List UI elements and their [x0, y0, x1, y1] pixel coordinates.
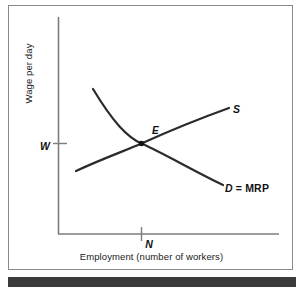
- bottom-rule-bar: [8, 277, 296, 287]
- wage-axis-tick-label: W: [40, 140, 50, 152]
- demand-symbol: D: [225, 182, 233, 194]
- equilibrium-point-marker: [139, 141, 144, 146]
- employment-axis-tick-label: N: [137, 238, 161, 250]
- x-axis-label: Employment (number of workers): [9, 251, 294, 262]
- plot-area: [9, 6, 294, 271]
- supply-curve-label: S: [233, 103, 240, 115]
- demand-equals-sign: =: [233, 182, 246, 194]
- chart-frame: Wage per day Employment (number of worke…: [8, 5, 293, 270]
- demand-mrp-label: MRP: [245, 182, 269, 194]
- demand-curve-label: D = MRP: [225, 182, 269, 194]
- equilibrium-label: E: [152, 125, 159, 136]
- y-axis-label: Wage per day: [23, 24, 34, 124]
- figure-root: Wage per day Employment (number of worke…: [0, 0, 307, 296]
- supply-curve: [76, 108, 229, 171]
